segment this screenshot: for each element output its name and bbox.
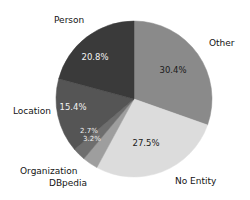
pie-value-label-organization: 2.7%	[80, 127, 98, 135]
pie-value-label-location: 15.4%	[59, 102, 86, 112]
pie-category-label-dbpedia: DBpedia	[49, 178, 87, 188]
pie-slice-group	[56, 21, 212, 177]
pie-value-label-person: 20.8%	[81, 52, 108, 62]
pie-value-label-no-entity: 27.5%	[132, 138, 159, 148]
pie-category-label-no-entity: No Entity	[175, 176, 216, 186]
pie-category-label-organization: Organization	[20, 166, 78, 176]
pie-value-label-other: 30.4%	[159, 65, 186, 75]
pie-category-label-location: Location	[13, 106, 51, 116]
pie-value-label-dbpedia: 3.2%	[83, 135, 101, 143]
pie-chart-screenshot: 30.4%27.5%3.2%2.7%15.4%20.8% OtherNo Ent…	[0, 0, 250, 200]
pie-category-label-person: Person	[54, 15, 84, 25]
pie-category-label-other: Other	[209, 38, 235, 48]
